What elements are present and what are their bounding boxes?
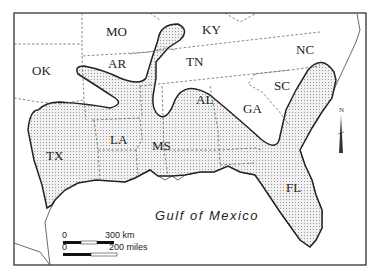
label-ky: KY [202, 22, 221, 37]
gulf-label: Gulf of Mexico [155, 208, 259, 223]
label-tn: TN [186, 54, 204, 69]
label-al: AL [196, 92, 213, 107]
label-sc: SC [274, 78, 290, 93]
label-nc: NC [296, 42, 314, 57]
scale-km-zero: 0 [62, 230, 67, 240]
label-fl: FL [286, 180, 301, 195]
scale-mi-label: 200 miles [109, 242, 148, 252]
label-mo: MO [106, 24, 127, 39]
scale-km-label: 300 km [105, 230, 135, 240]
map-canvas: MO KY OK AR TN NC SC GA AL LA MS TX FL G… [0, 0, 376, 279]
label-ms: MS [152, 138, 171, 153]
scale-mi-zero: 0 [62, 242, 67, 252]
label-ga: GA [243, 101, 262, 116]
label-ok: OK [32, 63, 51, 78]
label-tx: TX [46, 148, 64, 163]
label-ar: AR [108, 56, 126, 71]
label-la: LA [110, 132, 128, 147]
north-label: N [339, 106, 344, 114]
